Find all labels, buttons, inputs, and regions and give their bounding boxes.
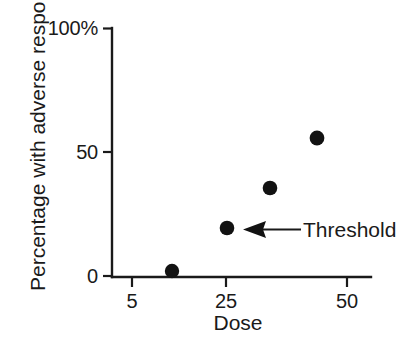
- data-point: [220, 221, 235, 236]
- x-tick-label-5: 5: [112, 290, 152, 313]
- threshold-arrow-head: [243, 221, 266, 238]
- x-axis-title: Dose: [188, 311, 288, 335]
- x-tick-label-50: 50: [327, 290, 367, 313]
- x-tick-label-25: 25: [206, 290, 246, 313]
- dose-response-chart: 100% 50 0 5 25 50 Dose Percentage with a…: [0, 0, 398, 346]
- data-point: [263, 181, 278, 196]
- data-point: [310, 131, 325, 146]
- y-axis-title: Percentage with adverse response: [26, 0, 50, 291]
- data-point: [165, 264, 179, 278]
- threshold-annotation-label: Threshold: [303, 218, 396, 242]
